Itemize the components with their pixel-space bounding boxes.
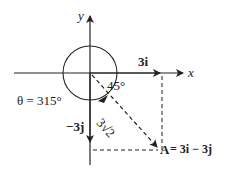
vector-a-equation: = 3i − 3j <box>170 143 212 155</box>
angle-45-label: 45° <box>107 79 125 92</box>
theta-label: θ = 315° <box>17 94 62 107</box>
y-axis-label: y <box>78 9 84 22</box>
vector-diagram: y x 3i 45° θ = 315° −3j 3√2 A = 3i − 3j <box>0 0 237 179</box>
j-component-label: −3j <box>66 120 84 133</box>
vector-a-name: A <box>160 143 169 156</box>
x-axis-label: x <box>188 66 194 79</box>
i-component-label: 3i <box>138 55 148 68</box>
